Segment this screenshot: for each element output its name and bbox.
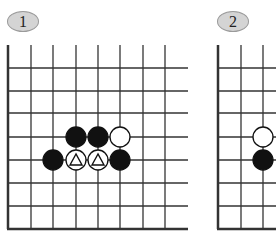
black-stone: [66, 127, 86, 147]
white-stone: [253, 127, 273, 147]
white-stone: [110, 127, 130, 147]
go-boards: [0, 0, 276, 231]
black-stone: [253, 150, 273, 170]
black-stone: [88, 127, 108, 147]
black-stone: [110, 150, 130, 170]
black-stone: [43, 150, 63, 170]
